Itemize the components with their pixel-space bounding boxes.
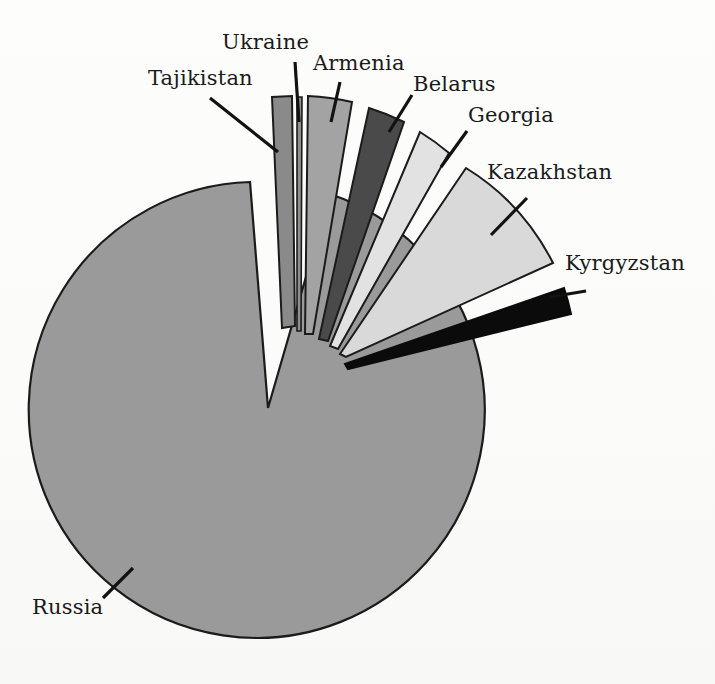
label-ukraine: Ukraine <box>222 32 309 53</box>
label-armenia: Armenia <box>313 53 405 74</box>
label-belarus: Belarus <box>413 74 496 95</box>
label-georgia: Georgia <box>468 105 554 126</box>
pie-slice-ukraine[interactable] <box>297 97 302 331</box>
leader-line-tajikistan <box>210 98 278 152</box>
label-kyrgyzstan: Kyrgyzstan <box>565 253 685 274</box>
pie-chart-svg <box>0 0 715 684</box>
leader-line-ukraine <box>295 62 299 122</box>
label-kazakhstan: Kazakhstan <box>487 162 612 183</box>
label-tajikistan: Tajikistan <box>148 68 253 89</box>
pie-chart-figure: Tajikistan Ukraine Armenia Belarus Georg… <box>0 0 715 684</box>
pie-slice-tajikistan[interactable] <box>272 96 295 328</box>
label-russia: Russia <box>32 597 103 618</box>
